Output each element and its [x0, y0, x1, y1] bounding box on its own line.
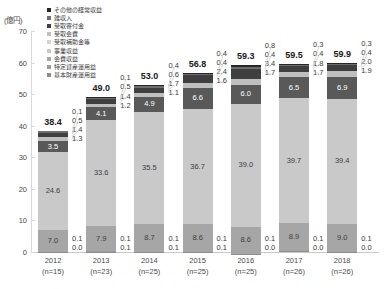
segment-value-label: 3.5	[38, 143, 68, 151]
bar-callout-group: 0.40.42.41.6	[217, 49, 227, 86]
bar-segment: 39.7	[279, 98, 309, 223]
bar-total-label: 59.3	[237, 51, 255, 61]
callout-value: 0.6	[168, 70, 178, 79]
legend-item: 受取会費	[47, 30, 102, 38]
callout-value: 0.0	[361, 243, 371, 252]
bar-segment: 3.5	[38, 141, 68, 152]
legend-swatch-icon	[47, 65, 51, 69]
bar-total-label: 56.8	[189, 59, 207, 69]
bar-segment: 6.5	[279, 77, 309, 98]
segment-value-label: 39.4	[327, 158, 357, 166]
bar-total-label: 49.0	[92, 83, 110, 93]
y-axis-tick-label: 70	[19, 27, 27, 36]
y-axis-tick-label: 60	[19, 58, 27, 67]
legend-swatch-icon	[47, 57, 51, 61]
bar-segment: 8.9	[279, 223, 309, 251]
legend-item-label: 会費収益	[54, 55, 78, 63]
x-axis-year: 2018	[309, 256, 375, 267]
legend-item-label: その他の経常収益	[54, 6, 102, 14]
legend-item-label: 受取寄付金	[54, 22, 84, 30]
y-axis-tick-label: 30	[19, 153, 27, 162]
y-axis-tick-label: 50	[19, 90, 27, 99]
legend-item: 事業収益	[47, 46, 102, 54]
callout-value: 1.4	[72, 125, 82, 134]
legend-swatch-icon	[47, 32, 51, 36]
bar-column: 4.133.67.9	[86, 97, 116, 252]
bar-segment: 39.0	[231, 104, 261, 227]
legend-item-label: 受取補助金等	[54, 38, 90, 46]
callout-value: 0.0	[265, 243, 275, 252]
callout-value: 3.4	[265, 59, 275, 68]
segment-value-label: 6.6	[183, 94, 213, 102]
segment-value-label: 6.9	[327, 85, 357, 93]
bar-segment: 8.7	[134, 224, 164, 251]
y-axis-tick-label: 40	[19, 121, 27, 130]
callout-value: 0.1	[120, 73, 130, 82]
legend-swatch-icon	[47, 24, 51, 28]
bar-column: 6.939.49.0	[327, 63, 357, 252]
legend-item-label: 雑収入	[54, 14, 72, 22]
callout-value: 0.1	[217, 234, 227, 243]
legend-swatch-icon	[47, 49, 51, 53]
callout-value: 0.0	[72, 243, 82, 252]
callout-value: 1.9	[361, 66, 371, 75]
bar-column: 3.524.67.0	[38, 131, 68, 252]
callout-value: 0.4	[313, 49, 323, 58]
segment-value-label: 39.0	[231, 161, 261, 169]
legend-item: 受取寄付金	[47, 22, 102, 30]
segment-value-label: 7.9	[86, 235, 116, 243]
callout-value: 0.5	[72, 116, 82, 125]
segment-value-label: 6.0	[231, 90, 261, 98]
segment-value-label: 24.6	[38, 187, 68, 195]
bar-callout-group: 0.10.51.41.3	[72, 107, 82, 144]
segment-value-label: 6.5	[279, 84, 309, 92]
legend-swatch-icon	[47, 40, 51, 44]
callout-value: 1.6	[217, 76, 227, 85]
bar-base-callout-group: 0.10.1	[120, 234, 130, 252]
segment-value-label: 35.5	[134, 164, 164, 172]
bar-segment: 4.1	[86, 107, 116, 120]
bar-total-label: 38.4	[44, 117, 62, 127]
callout-value: 0.4	[265, 50, 275, 59]
segment-value-label: 39.7	[279, 157, 309, 165]
legend-item: 特定資産運用益	[47, 63, 102, 71]
bar-total-label: 59.9	[333, 49, 351, 59]
callout-value: 1.1	[168, 88, 178, 97]
x-axis-sample-size: (n=26)	[309, 267, 375, 278]
callout-value: 0.1	[72, 107, 82, 116]
legend-item-label: 受取会費	[54, 30, 78, 38]
legend-item: 受取補助金等	[47, 38, 102, 46]
bar-column: 6.039.08.6	[231, 65, 261, 252]
legend-item: 基本財産運用益	[47, 71, 102, 79]
bar-segment: 6.9	[327, 77, 357, 99]
legend-item-label: 事業収益	[54, 47, 78, 55]
bar-callout-group: 0.40.61.71.1	[168, 61, 178, 98]
legend-swatch-icon	[47, 73, 51, 77]
segment-value-label: 8.9	[279, 234, 309, 242]
callout-value: 0.1	[120, 243, 130, 252]
callout-value: 0.4	[217, 58, 227, 67]
callout-value: 0.5	[120, 82, 130, 91]
bar-segment: 33.6	[86, 120, 116, 226]
callout-value: 1.3	[72, 134, 82, 143]
callout-value: 1.8	[313, 59, 323, 68]
callout-value: 1.4	[120, 92, 130, 101]
stacked-bar-chart: (億円) その他の経常収益雑収入受取寄付金受取会費受取補助金等事業収益会費収益特…	[0, 0, 384, 289]
legend-swatch-icon	[47, 16, 51, 20]
legend-item: 雑収入	[47, 14, 102, 22]
bar-segment	[231, 69, 261, 80]
legend-item: 会費収益	[47, 55, 102, 63]
y-axis-tick-label: 20	[19, 184, 27, 193]
callout-value: 0.0	[313, 243, 323, 252]
callout-value: 0.1	[168, 234, 178, 243]
bar-segment: 6.6	[183, 88, 213, 109]
bar-column: 6.539.78.9	[279, 64, 309, 252]
bar-segment: 7.9	[86, 226, 116, 251]
callout-value: 1.7	[265, 68, 275, 77]
callout-value: 0.8	[265, 41, 275, 50]
segment-value-label: 4.1	[86, 110, 116, 118]
bar-segment: 7.0	[38, 230, 68, 252]
callout-value: 0.1	[361, 234, 371, 243]
bar-base-callout-group: 0.10.0	[265, 234, 275, 252]
bar-total-label: 59.5	[285, 50, 303, 60]
